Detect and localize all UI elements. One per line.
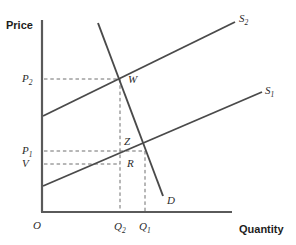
curve-layer [43,22,262,196]
diagram-canvas [0,0,296,245]
curve-line-s2 [43,22,235,116]
curve-line-d [98,23,163,196]
dashed-guide-layer [44,79,145,212]
curve-line-s1 [43,92,262,186]
supply-demand-figure: Price Quantity O P2P1V Q2Q1 S2S1D WZR [0,0,296,245]
axis-layer [41,20,232,212]
